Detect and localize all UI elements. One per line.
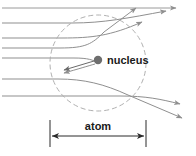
- atom-label: atom: [85, 120, 112, 132]
- alpha-ray-undeflected-bottom: [2, 96, 180, 104]
- alpha-ray-deflect-upper: [2, 22, 142, 38]
- nucleus-dot: [94, 56, 102, 64]
- nucleus-label: nucleus: [107, 54, 149, 66]
- rutherford-scattering-figure: nucleus atom: [0, 0, 196, 156]
- alpha-ray-incoming-headon: [2, 58, 97, 63]
- alpha-ray-large-angle-up: [2, 8, 136, 48]
- scattering-diagram-svg: nucleus atom: [0, 0, 196, 156]
